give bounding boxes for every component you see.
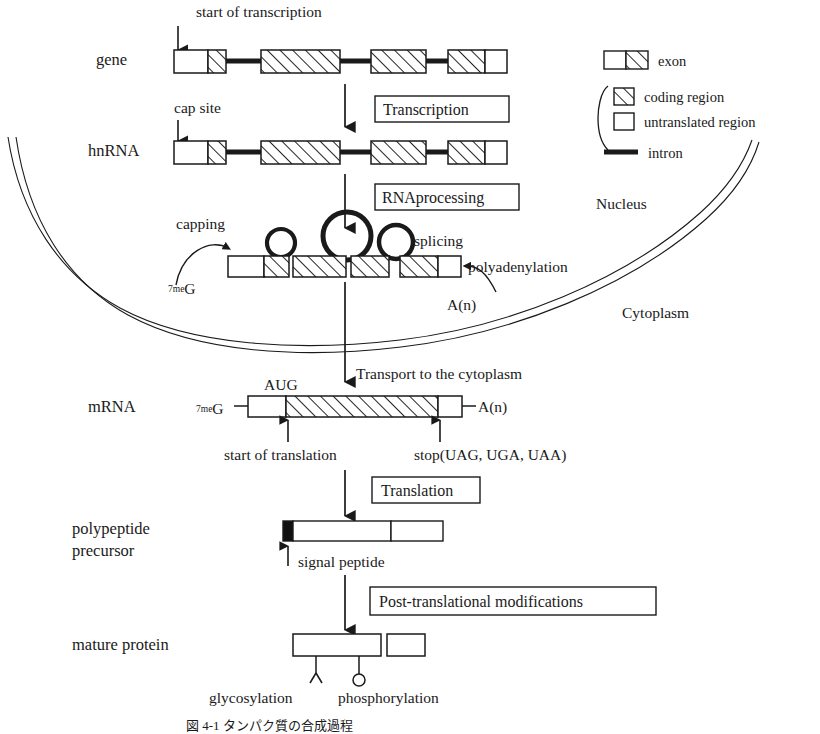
mrna-coding-region	[286, 396, 438, 417]
row-label-hnrna: hnRNA	[88, 141, 139, 160]
mrna-polya-label: A(n)	[478, 398, 507, 416]
annotation-polya-tail: A(n)	[447, 296, 476, 314]
mature-protein-structure	[293, 634, 425, 656]
annotation-phosphorylation: phosphorylation	[338, 689, 439, 706]
mrna-3utr	[438, 396, 462, 417]
label-cytoplasm: Cytoplasm	[622, 304, 689, 321]
signal-peptide-block	[283, 521, 293, 541]
polypeptide-segment-b	[391, 521, 443, 541]
process-box-post-translational[interactable]: Post-translational modifications	[370, 587, 656, 615]
legend-item-coding-region: coding region	[614, 88, 725, 105]
hnrna-exon4-untranslated	[485, 141, 507, 164]
legend-label-intron: intron	[648, 145, 683, 161]
annotation-cap-site: cap site	[174, 99, 221, 116]
row-label-polypeptide: polypeptide	[72, 519, 150, 538]
process-box-transcription-label: Transcription	[383, 101, 469, 119]
row-label-mature-protein: mature protein	[72, 635, 169, 654]
process-box-translation-label: Translation	[381, 482, 453, 499]
gene-exon4-untranslated	[485, 50, 507, 73]
annotation-start-of-transcription: start of transcription	[196, 3, 322, 20]
intron-loop-3	[379, 225, 413, 259]
legend-label-exon: exon	[658, 53, 687, 69]
spliced-exon1-coding	[264, 256, 289, 277]
process-box-transcription[interactable]: Transcription	[375, 96, 509, 122]
gene-exon4-coding	[448, 50, 485, 73]
process-box-translation[interactable]: Translation	[372, 477, 480, 503]
gene-exon2-coding	[261, 50, 340, 73]
legend-item-intron: intron	[604, 145, 683, 161]
hnrna-exon4-coding	[448, 141, 485, 164]
capping-arrow	[176, 245, 228, 285]
legend-item-untranslated-region: untranslated region	[614, 113, 756, 130]
row-label-precursor: precursor	[72, 541, 135, 560]
gene-exon3-coding	[371, 50, 426, 73]
cap-7meg-label: 7meG	[168, 280, 196, 297]
annotation-start-of-translation: start of translation	[224, 446, 337, 463]
hnrna-exon1-untranslated	[174, 141, 208, 164]
mature-protein-cleaved-fragment	[387, 634, 425, 656]
hnrna-exon1-coding	[208, 141, 226, 164]
annotation-signal-peptide: signal peptide	[298, 553, 385, 570]
hnrna-exon2-coding	[261, 141, 340, 164]
mature-protein-main	[293, 634, 381, 656]
figure-caption: 図 4-1 タンパク質の合成過程	[186, 718, 353, 733]
spliced-exon4-coding	[400, 256, 438, 277]
process-box-rna-processing[interactable]: RNAprocessing	[375, 184, 519, 210]
legend-item-exon: exon	[604, 51, 687, 69]
intron-loop-1	[267, 229, 295, 257]
annotation-glycosylation: glycosylation	[209, 689, 293, 706]
gene-structure	[174, 50, 507, 73]
mrna-structure	[248, 396, 462, 417]
gene-exon1-coding	[208, 50, 226, 73]
annotation-capping: capping	[176, 215, 225, 232]
spliced-exon2-coding	[293, 256, 346, 277]
mrna-cap-label: 7meG	[196, 400, 224, 417]
label-nucleus: Nucleus	[596, 195, 647, 212]
polypeptide-segment-a	[293, 521, 391, 541]
protein-synthesis-diagram: gene hnRNA mRNA polypeptide precursor ma…	[0, 0, 820, 734]
process-box-rna-processing-label: RNAprocessing	[382, 189, 484, 207]
hnrna-structure	[174, 141, 507, 164]
mrna-5utr	[248, 396, 286, 417]
glycosylation-marker	[310, 656, 322, 683]
legend-label-untranslated-region: untranslated region	[644, 114, 756, 130]
row-label-gene: gene	[96, 50, 127, 69]
annotation-transport: Transport to the cytoplasm	[356, 365, 522, 382]
polypeptide-precursor-structure	[283, 521, 443, 541]
phosphorylation-marker	[353, 656, 365, 686]
legend: exon coding region untranslated region i…	[598, 51, 756, 161]
process-box-post-translational-label: Post-translational modifications	[379, 593, 583, 610]
legend-brace	[598, 86, 608, 150]
spliced-5utr	[228, 256, 264, 277]
intron-loop-2	[323, 212, 371, 260]
legend-label-coding-region: coding region	[644, 89, 725, 105]
annotation-stop-codons: stop(UAG, UGA, UAA)	[414, 446, 566, 464]
hnrna-exon3-coding	[371, 141, 426, 164]
gene-exon1-untranslated	[174, 50, 208, 73]
spliced-3utr	[438, 256, 461, 277]
annotation-start-codon: AUG	[264, 376, 298, 393]
annotation-splicing: splicing	[414, 232, 463, 249]
annotation-polyadenylation: polyadenylation	[468, 258, 568, 275]
row-label-mrna: mRNA	[88, 397, 136, 416]
figure-canvas: gene hnRNA mRNA polypeptide precursor ma…	[0, 0, 820, 734]
spliced-exon3-coding	[351, 256, 389, 277]
